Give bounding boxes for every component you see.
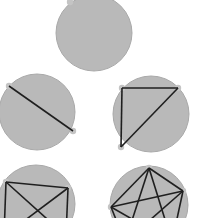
circle-chords-diagram	[0, 0, 212, 218]
circle-3-points	[113, 76, 189, 152]
chord-line	[121, 88, 122, 147]
circle-5-points	[108, 165, 188, 218]
circle-1-point	[56, 0, 132, 71]
circle-shape	[56, 0, 132, 71]
circle-2-points	[0, 74, 76, 150]
circle-4-points	[0, 165, 75, 218]
